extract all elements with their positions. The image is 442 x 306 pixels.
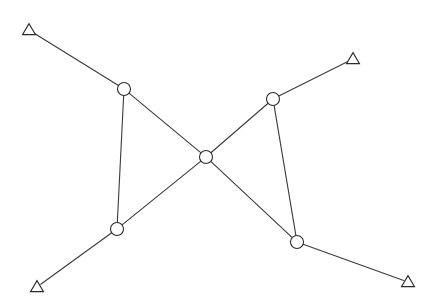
- edge-top-left-terminal-to-upper-left: [33, 32, 119, 85]
- edge-upper-right-to-top-right-terminal: [279, 61, 349, 96]
- junction-node-upper-left[interactable]: [118, 83, 131, 96]
- junction-node-lower-right[interactable]: [291, 236, 304, 249]
- edge-lower-left-to-bottom-left-terminal: [41, 233, 112, 284]
- junction-node-lower-left[interactable]: [111, 223, 124, 236]
- junction-node-upper-right[interactable]: [267, 93, 280, 106]
- edge-upper-left-to-lower-left: [117, 95, 123, 222]
- diagram-canvas: [0, 0, 442, 306]
- terminal-node-top-left[interactable]: [23, 24, 36, 35]
- terminal-node-top-right[interactable]: [347, 53, 360, 64]
- edge-lower-right-to-bottom-right-terminal: [303, 244, 404, 280]
- edge-upper-left-to-center: [129, 93, 201, 153]
- nodes-layer: [23, 24, 415, 292]
- edges-layer: [33, 32, 404, 284]
- edge-center-to-lower-left: [122, 161, 201, 225]
- terminal-node-bottom-left[interactable]: [31, 281, 44, 292]
- edge-center-to-upper-right: [211, 103, 268, 152]
- terminal-node-bottom-right[interactable]: [402, 276, 415, 287]
- graph-svg: [0, 0, 442, 306]
- edge-center-to-lower-right: [211, 161, 292, 237]
- junction-node-center[interactable]: [200, 151, 213, 164]
- edge-upper-right-to-lower-right: [274, 105, 296, 235]
